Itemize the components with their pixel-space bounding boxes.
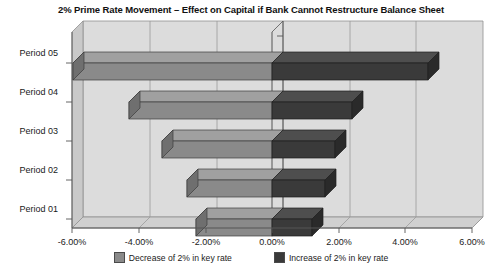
y-tick-label-period-03: Period 03 <box>19 126 58 136</box>
bar-period-03-increase <box>272 130 346 158</box>
y-tick-label-period-02: Period 02 <box>19 165 58 175</box>
legend-item-increase[interactable]: Increase of 2% in key rate <box>274 252 388 263</box>
chart-x-ticks <box>72 228 472 233</box>
chart-x-tick-labels: -6.00% -4.00% -2.00% 0.00% 2.00% 4.00% 6… <box>58 237 485 247</box>
x-tick-label-pos6: 6.00% <box>459 237 485 247</box>
chart-y-axis <box>66 32 72 228</box>
y-tick-label-period-01: Period 01 <box>19 204 58 214</box>
chart-plot-area: Period 05 Period 04 Period 03 Period 02 … <box>0 0 502 275</box>
bar-group-period-04 <box>129 91 363 119</box>
chart-container: 2% Prime Rate Movement – Effect on Capit… <box>0 0 502 275</box>
left-side-wall <box>72 21 83 228</box>
bar-group-period-05 <box>73 52 439 80</box>
legend-swatch-increase-icon <box>274 252 285 263</box>
bar-group-period-02 <box>187 169 336 197</box>
bar-period-02-decrease <box>187 169 283 197</box>
bar-period-03-decrease <box>162 130 283 158</box>
x-tick-label-neg4: -4.00% <box>125 237 154 247</box>
y-tick-label-period-04: Period 04 <box>19 87 58 97</box>
chart-legend: Decrease of 2% in key rate Increase of 2… <box>0 252 502 263</box>
x-tick-label-neg2: -2.00% <box>192 237 221 247</box>
bar-group-period-01 <box>196 208 323 236</box>
legend-label-increase: Increase of 2% in key rate <box>289 253 388 263</box>
y-tick-label-period-05: Period 05 <box>19 48 58 58</box>
x-tick-label-pos2: 2.00% <box>326 237 352 247</box>
bar-period-02-increase <box>272 169 336 197</box>
bar-period-05-decrease <box>73 52 283 80</box>
x-tick-label-pos4: 4.00% <box>392 237 418 247</box>
chart-y-tick-labels: Period 05 Period 04 Period 03 Period 02 … <box>19 48 58 214</box>
x-tick-label-neg6: -6.00% <box>58 237 87 247</box>
bar-period-01-decrease <box>196 208 283 236</box>
bar-period-04-decrease <box>129 91 283 119</box>
legend-item-decrease[interactable]: Decrease of 2% in key rate <box>114 252 232 263</box>
bar-group-period-03 <box>162 130 346 158</box>
bar-period-05-increase <box>272 52 439 80</box>
bar-period-01-increase <box>272 208 323 236</box>
legend-swatch-decrease-icon <box>114 252 125 263</box>
legend-label-decrease: Decrease of 2% in key rate <box>129 253 232 263</box>
bar-period-04-increase <box>272 91 363 119</box>
x-tick-label-zero: 0.00% <box>259 237 285 247</box>
